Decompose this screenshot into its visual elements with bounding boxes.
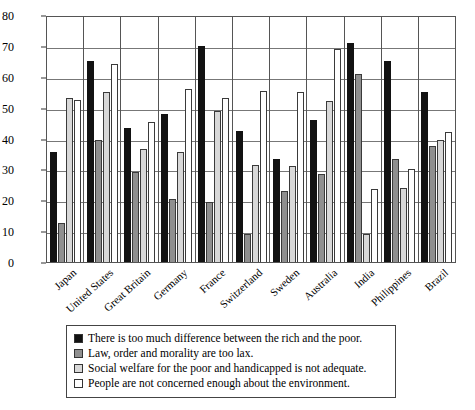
legend-item[interactable]: People are not concerned enough about th… — [74, 376, 388, 391]
bar-group — [382, 17, 419, 262]
bar — [260, 91, 267, 262]
bar — [310, 120, 317, 262]
y-axis-tick-mark — [41, 108, 46, 109]
series-2-swatch — [74, 364, 83, 373]
bar — [58, 223, 65, 262]
bar — [198, 46, 205, 262]
y-axis-tick-mark — [41, 232, 46, 233]
bar-group — [233, 17, 270, 262]
plot-area — [46, 16, 456, 263]
bar — [161, 114, 168, 262]
y-axis-tick-mark — [41, 46, 46, 47]
bar — [408, 169, 415, 262]
bar-group — [196, 17, 233, 262]
y-axis-tick-label: 30 — [0, 164, 14, 176]
bar — [111, 64, 118, 262]
bar — [236, 131, 243, 262]
bar — [252, 165, 259, 262]
chart-legend: There is too much difference between the… — [66, 325, 396, 398]
bar — [74, 100, 81, 262]
bar-group — [47, 17, 84, 262]
bar — [95, 140, 102, 262]
series-3-swatch — [74, 379, 83, 388]
y-axis-tick-label: 60 — [0, 72, 14, 84]
bar-group — [345, 17, 382, 262]
plot-wrap — [46, 16, 456, 263]
bar — [421, 92, 428, 262]
y-axis-tick-mark — [41, 170, 46, 171]
y-axis-tick-label: 0 — [0, 257, 14, 269]
bar — [355, 74, 362, 262]
bar-group — [307, 17, 344, 262]
bar — [334, 49, 341, 262]
bar — [103, 92, 110, 262]
y-axis-tick-mark — [41, 139, 46, 140]
series-1-swatch — [74, 349, 83, 358]
y-axis-tick-label: 10 — [0, 226, 14, 238]
bar — [400, 188, 407, 262]
legend-item-label: Law, order and morality are too lax. — [88, 348, 253, 360]
y-axis-tick-label: 20 — [0, 195, 14, 207]
bar-chart: JapanUnited StatesGreat BritainGermanyFr… — [0, 0, 475, 410]
bar-groups — [47, 17, 455, 262]
bar-group — [159, 17, 196, 262]
bar — [214, 111, 221, 262]
legend-item[interactable]: Social welfare for the poor and handicap… — [74, 361, 388, 376]
y-axis-tick-label: 50 — [0, 103, 14, 115]
legend-item-label: Social welfare for the poor and handicap… — [88, 363, 366, 375]
bar-group — [270, 17, 307, 262]
category-labels: JapanUnited StatesGreat BritainGermanyFr… — [46, 263, 456, 323]
bar — [392, 159, 399, 262]
bar — [326, 101, 333, 262]
y-axis-tick-mark — [41, 201, 46, 202]
series-0-swatch — [74, 334, 83, 343]
bar-group — [84, 17, 121, 262]
bar — [347, 43, 354, 262]
legend-item-label: People are not concerned enough about th… — [88, 378, 350, 390]
bar-group — [419, 17, 455, 262]
y-axis-tick-label: 70 — [0, 41, 14, 53]
bar — [222, 98, 229, 262]
legend-item-label: There is too much difference between the… — [88, 333, 362, 345]
y-axis-tick-mark — [41, 77, 46, 78]
y-axis-tick-mark — [41, 16, 46, 17]
bar — [384, 61, 391, 262]
bar — [66, 98, 73, 262]
y-axis-tick-label: 40 — [0, 134, 14, 146]
y-axis-tick-mark — [41, 263, 46, 264]
bar — [371, 189, 378, 262]
legend-item[interactable]: There is too much difference between the… — [74, 331, 388, 346]
y-axis-tick-label: 80 — [0, 10, 14, 22]
bar — [87, 61, 94, 262]
legend-item[interactable]: Law, order and morality are too lax. — [74, 346, 388, 361]
bar — [50, 152, 57, 262]
bar-group — [121, 17, 158, 262]
bar — [124, 128, 131, 262]
